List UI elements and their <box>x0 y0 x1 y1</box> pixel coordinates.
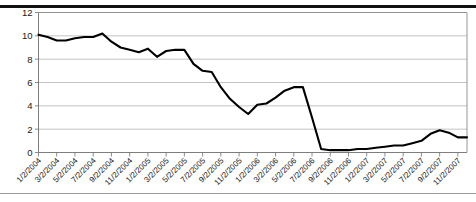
line-chart-plot: 024681012 1/2/20043/2/20045/2/20047/2/20… <box>0 0 476 202</box>
data-series <box>39 34 468 151</box>
y-tick-label: 12 <box>22 7 33 18</box>
y-tick-label: 0 <box>27 147 32 158</box>
y-tick-label: 4 <box>27 100 32 111</box>
gridlines <box>39 13 468 130</box>
y-tick-label: 6 <box>27 77 32 88</box>
y-tick-label: 10 <box>22 30 33 41</box>
y-tick-label: 8 <box>27 54 32 65</box>
y-tick-label: 2 <box>27 124 32 135</box>
x-axis-ticks: 1/2/20043/2/20045/2/20047/2/20049/2/2004… <box>15 153 463 188</box>
y-axis-ticks: 024681012 <box>22 7 39 158</box>
series-line-1 <box>39 34 468 151</box>
chart-figure: 024681012 1/2/20043/2/20045/2/20047/2/20… <box>0 0 476 202</box>
